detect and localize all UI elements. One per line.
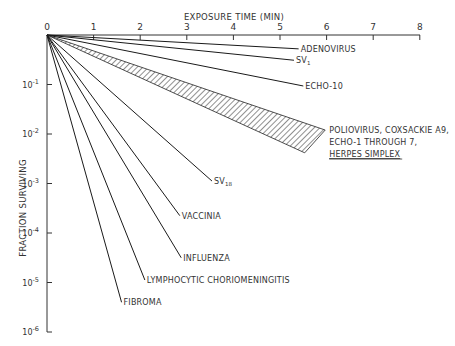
x-tick-label: 8 [417, 22, 423, 32]
x-tick-label: 4 [231, 22, 237, 32]
series-line-echo-10 [47, 35, 303, 86]
y-tick-label: 10-6 [22, 325, 39, 337]
x-axis-title: EXPOSURE TIME (MIN) [184, 12, 284, 22]
series-label: LYMPHOCYTIC CHORIOMENINGITIS [147, 276, 290, 285]
x-tick-label: 3 [184, 22, 190, 32]
y-tick-label: 10-1 [22, 78, 39, 90]
series-label: ECHO-10 [305, 82, 343, 91]
chart: EXPOSURE TIME (MIN) 012345678 10-110-210… [0, 0, 455, 346]
series-line-sv18 [47, 35, 212, 181]
x-tick-label: 7 [370, 22, 376, 32]
series-group: ADENOVIRUSSV1ECHO-10POLIOVIRUS, COXSACKI… [47, 35, 449, 307]
x-tick-label: 5 [277, 22, 283, 32]
series-label: SV18 [214, 177, 233, 187]
y-tick-label: 10-5 [22, 276, 39, 288]
series-label-underlined: HERPES SIMPLEX [329, 150, 400, 159]
series-label: POLIOVIRUS, COXSACKIE A9, [329, 126, 449, 135]
series-label: SV1 [296, 56, 311, 66]
y-axis-title: FRACTION SURVIVING [18, 159, 28, 257]
series-label: ECHO-1 THROUGH 7, [329, 138, 417, 147]
series-label: FIBROMA [124, 298, 162, 307]
x-tick-label: 0 [44, 22, 50, 32]
series-label: ADENOVIRUS [301, 45, 356, 54]
series-label: INFLUENZA [183, 254, 230, 263]
x-tick-label: 6 [324, 22, 330, 32]
series-band-poliovirus-coxsackie-a9-echo-1-through-7-herpes-simplex [47, 35, 325, 153]
x-tick-label: 1 [91, 22, 97, 32]
x-tick-label: 2 [137, 22, 143, 32]
series-label: VACCINIA [182, 212, 222, 221]
y-tick-label: 10-2 [22, 127, 39, 139]
series-line-adenovirus [47, 35, 299, 49]
series-line-influenza [47, 35, 181, 258]
x-ticks: 012345678 [44, 22, 423, 40]
series-line-fibroma [47, 35, 122, 302]
